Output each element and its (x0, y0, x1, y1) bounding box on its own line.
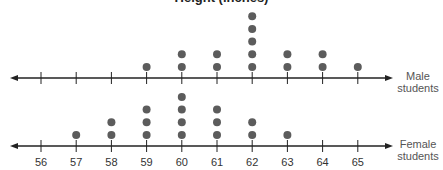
data-dot (178, 131, 186, 139)
axis-arrow-left-icon (10, 143, 18, 149)
data-dot (248, 63, 256, 71)
data-dot (213, 50, 221, 58)
female-series-label: Female students (394, 138, 442, 162)
data-dot (248, 118, 256, 126)
axis-arrow-right-icon (385, 143, 393, 149)
tick-label: 57 (70, 156, 82, 168)
data-dot (178, 93, 186, 101)
tick-label: 59 (140, 156, 152, 168)
tick-label: 60 (176, 156, 188, 168)
axis-arrow-left-icon (10, 75, 18, 81)
male-label-line1: Male (394, 70, 442, 82)
data-dot (248, 131, 256, 139)
data-dot (72, 131, 80, 139)
data-dot (143, 106, 151, 114)
data-dot (213, 131, 221, 139)
tick-label: 61 (211, 156, 223, 168)
male-label-line2: students (394, 82, 442, 94)
tick-label: 63 (281, 156, 293, 168)
data-dot (283, 50, 291, 58)
data-dot (319, 50, 327, 58)
data-dot (213, 106, 221, 114)
tick-label: 58 (105, 156, 117, 168)
data-dot (283, 131, 291, 139)
data-dot (213, 63, 221, 71)
female-label-line1: Female (394, 138, 442, 150)
data-dot (283, 63, 291, 71)
dot-plot-canvas: 56575859606162636465 (0, 0, 443, 170)
data-dot (178, 63, 186, 71)
data-dot (248, 50, 256, 58)
male-series-label: Male students (394, 70, 442, 94)
data-dot (107, 118, 115, 126)
tick-label: 64 (316, 156, 328, 168)
data-dot (248, 38, 256, 46)
data-dot (178, 118, 186, 126)
tick-label: 65 (352, 156, 364, 168)
data-dot (213, 118, 221, 126)
axis-arrow-right-icon (385, 75, 393, 81)
female-label-line2: students (394, 150, 442, 162)
data-dot (354, 63, 362, 71)
tick-label: 56 (35, 156, 47, 168)
data-dot (248, 25, 256, 33)
data-dot (248, 12, 256, 20)
data-dot (107, 131, 115, 139)
data-dot (319, 63, 327, 71)
data-dot (178, 50, 186, 58)
data-dot (143, 131, 151, 139)
data-dot (143, 118, 151, 126)
data-dot (178, 106, 186, 114)
data-dot (143, 63, 151, 71)
tick-label: 62 (246, 156, 258, 168)
